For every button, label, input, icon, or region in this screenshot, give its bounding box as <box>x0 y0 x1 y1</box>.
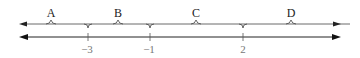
number-line-arrow-right-icon <box>332 34 341 40</box>
region-label-a: A <box>47 6 56 20</box>
region-label-d: D <box>287 6 296 20</box>
region-braces <box>22 20 350 28</box>
number-line-diagram: A B C D −3 −1 2 <box>0 0 360 58</box>
tick-label-neg3: −3 <box>81 43 93 55</box>
region-label-c: C <box>192 6 200 20</box>
region-label-b: B <box>114 6 122 20</box>
brace-arrow-right-icon <box>333 22 341 27</box>
tick-label-neg1: −1 <box>143 43 155 55</box>
number-line-arrow-left-icon <box>19 34 28 40</box>
tick-label-2: 2 <box>240 43 246 55</box>
brace-arrow-left-icon <box>19 22 27 27</box>
